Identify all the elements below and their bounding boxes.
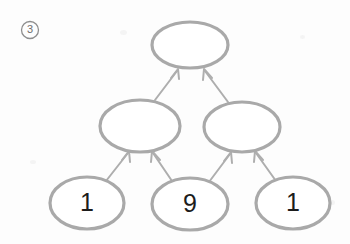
node-bot-mid[interactable]: 9 (152, 178, 228, 230)
node-ellipse[interactable] (152, 22, 228, 68)
arrow-shaft (256, 153, 276, 181)
arrow-shaft (153, 153, 172, 181)
node-value-text: 1 (286, 188, 300, 216)
node-ellipse[interactable] (100, 100, 180, 152)
node-bot-right[interactable]: 1 (256, 177, 330, 229)
arrow-bot-right-to-mid-right (254, 151, 276, 181)
pyramid-row-top (152, 22, 228, 68)
node-mid-right[interactable] (204, 102, 280, 152)
worksheet-page: 3 (0, 0, 350, 244)
arrow-shaft (205, 71, 228, 102)
arrow-head-icon (171, 69, 179, 79)
node-top[interactable] (152, 22, 228, 68)
arrow-bot-left-to-mid-left (106, 151, 130, 181)
pyramid-row-bottom: 1 9 1 (50, 177, 330, 230)
arrow-mid-right-to-top (203, 69, 228, 102)
arrow-bot-mid-to-mid-right (209, 152, 232, 182)
node-ellipse[interactable] (204, 102, 280, 152)
node-value-text: 9 (183, 189, 197, 217)
node-value-text: 1 (80, 188, 94, 216)
pyramid-diagram: 3 (0, 0, 350, 244)
node-bot-left[interactable]: 1 (50, 177, 124, 229)
arrow-bot-mid-to-mid-left (151, 151, 172, 181)
pyramid-row-middle (100, 100, 280, 152)
node-mid-left[interactable] (100, 100, 180, 152)
arrow-mid-left-to-top (155, 69, 179, 100)
problem-number-text: 3 (27, 23, 33, 35)
problem-number-label: 3 (22, 22, 39, 39)
